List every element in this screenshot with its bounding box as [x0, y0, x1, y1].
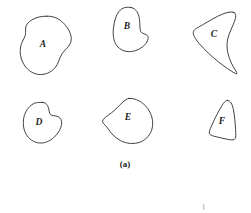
figure-caption: (a) — [120, 159, 131, 169]
blob-label-a: A — [39, 39, 46, 49]
shape-figure-canvas: A B C D E F (a) — [0, 0, 251, 213]
blob-label-b: B — [123, 21, 130, 31]
blob-label-f: F — [218, 116, 226, 126]
blob-label-c: C — [211, 29, 218, 39]
figure-container: A B C D E F (a) — [0, 0, 251, 213]
blob-label-e: E — [124, 112, 131, 122]
scan-artifact-tick — [203, 204, 204, 210]
blob-label-d: D — [35, 117, 43, 127]
